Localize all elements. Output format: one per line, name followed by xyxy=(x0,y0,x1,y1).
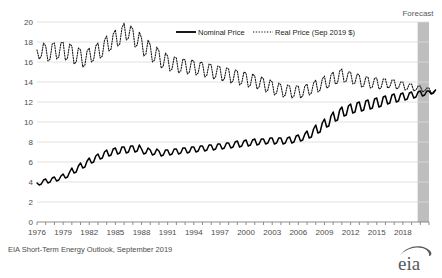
y-tick-label-0: 0 xyxy=(29,218,34,227)
line-chart: 02468101214161820 1976197919821985198819… xyxy=(0,0,442,278)
forecast-label: Forecast xyxy=(402,9,434,18)
x-tick-label-1979: 1979 xyxy=(54,228,72,237)
x-tick-label-1994: 1994 xyxy=(185,228,203,237)
y-axis-tick-labels: 02468101214161820 xyxy=(24,18,33,227)
x-tick-label-1976: 1976 xyxy=(28,228,46,237)
series-line-nominal-price xyxy=(37,90,436,185)
y-tick-label-6: 6 xyxy=(29,158,34,167)
y-tick-label-10: 10 xyxy=(24,118,33,127)
x-tick-label-2009: 2009 xyxy=(316,228,334,237)
x-tick-label-2018: 2018 xyxy=(394,228,412,237)
eia-logo: eia xyxy=(398,246,431,274)
x-tick-label-2003: 2003 xyxy=(263,228,281,237)
y-tick-label-12: 12 xyxy=(24,98,33,107)
eia-logo-text: eia xyxy=(398,253,421,274)
legend-label-nominal-price: Nominal Price xyxy=(198,28,245,37)
y-tick-label-4: 4 xyxy=(29,178,34,187)
y-tick-label-20: 20 xyxy=(24,18,33,27)
x-tick-label-1991: 1991 xyxy=(159,228,177,237)
source-caption: EIA Short-Term Energy Outlook, September… xyxy=(8,245,172,254)
y-tick-label-14: 14 xyxy=(24,78,33,87)
x-tick-label-2012: 2012 xyxy=(342,228,360,237)
x-tick-label-2000: 2000 xyxy=(237,228,255,237)
y-tick-label-8: 8 xyxy=(29,138,34,147)
chart-container: 02468101214161820 1976197919821985198819… xyxy=(0,0,442,278)
y-tick-label-2: 2 xyxy=(29,198,34,207)
x-axis-tick-labels: 1976197919821985198819911994199720002003… xyxy=(28,228,412,237)
x-tick-label-1997: 1997 xyxy=(211,228,229,237)
x-tick-label-2006: 2006 xyxy=(289,228,307,237)
chart-legend: Nominal Price Real Price (Sep 2019 $) xyxy=(176,28,356,37)
legend-label-real-price: Real Price (Sep 2019 $) xyxy=(275,28,356,37)
x-tick-label-2015: 2015 xyxy=(368,228,386,237)
y-tick-label-16: 16 xyxy=(24,58,33,67)
y-tick-label-18: 18 xyxy=(24,38,33,47)
x-tick-label-1988: 1988 xyxy=(133,228,151,237)
x-tick-label-1985: 1985 xyxy=(107,228,125,237)
gridlines xyxy=(37,22,429,202)
x-tick-label-1982: 1982 xyxy=(80,228,98,237)
